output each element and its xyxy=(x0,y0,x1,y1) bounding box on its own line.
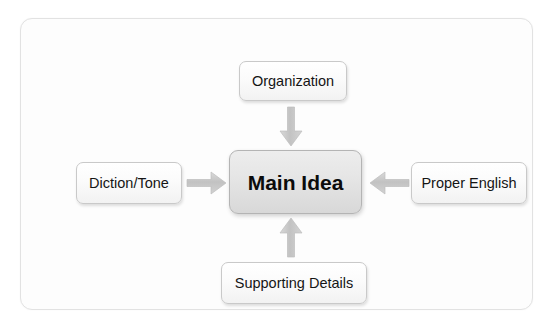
node-organization-label: Organization xyxy=(252,74,334,89)
node-proper-english[interactable]: Proper English xyxy=(411,162,527,204)
arrow-up-icon xyxy=(279,217,303,257)
node-diction-tone-label: Diction/Tone xyxy=(89,176,169,191)
node-diction-tone[interactable]: Diction/Tone xyxy=(76,162,182,204)
node-supporting-details[interactable]: Supporting Details xyxy=(221,262,367,304)
node-main-idea-label: Main Idea xyxy=(248,172,344,193)
arrow-down-icon xyxy=(279,107,303,147)
node-supporting-details-label: Supporting Details xyxy=(235,276,354,291)
node-proper-english-label: Proper English xyxy=(421,176,516,191)
node-organization[interactable]: Organization xyxy=(239,61,347,101)
node-main-idea[interactable]: Main Idea xyxy=(229,150,362,214)
arrow-left-icon xyxy=(369,171,409,195)
diagram-frame: Organization Diction/Tone Main Idea Prop… xyxy=(20,18,533,310)
arrow-right-icon xyxy=(187,171,227,195)
